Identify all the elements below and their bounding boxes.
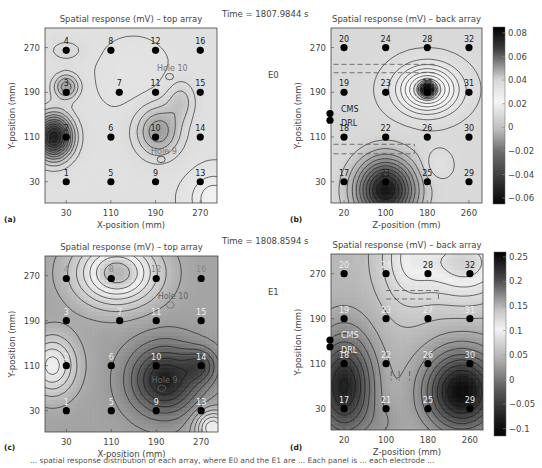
- field-cell: [205, 139, 210, 144]
- field-cell: [166, 155, 171, 160]
- field-cell: [124, 352, 129, 357]
- field-cell: [372, 254, 376, 259]
- field-cell: [119, 159, 124, 164]
- field-cell: [80, 175, 85, 180]
- field-cell: [84, 404, 89, 409]
- electrode-dot: [116, 317, 123, 324]
- field-cell: [182, 163, 187, 168]
- field-cell: [431, 28, 435, 33]
- field-cell: [171, 328, 176, 333]
- field-cell: [417, 342, 421, 347]
- field-cell: [186, 179, 191, 184]
- field-cell: [331, 278, 335, 283]
- field-cell: [452, 398, 456, 403]
- field-cell: [100, 344, 105, 349]
- field-cell: [431, 159, 435, 164]
- field-cell: [206, 320, 211, 325]
- field-cell: [104, 84, 109, 89]
- field-cell: [417, 314, 421, 319]
- field-cell: [171, 324, 176, 329]
- field-cell: [135, 272, 140, 277]
- field-cell: [441, 167, 445, 172]
- electrode-label: 24: [381, 261, 391, 270]
- field-cell: [407, 119, 411, 124]
- field-cell: [88, 88, 93, 93]
- field-cell: [362, 56, 366, 61]
- field-cell: [190, 127, 195, 132]
- field-cell: [123, 147, 128, 152]
- field-cell: [382, 96, 386, 101]
- field-cell: [80, 356, 85, 361]
- field-cell: [53, 32, 58, 37]
- field-cell: [369, 68, 373, 73]
- field-cell: [147, 92, 152, 97]
- field-cell: [352, 402, 356, 407]
- field-cell: [334, 262, 338, 267]
- field-cell: [417, 394, 421, 399]
- field-cell: [393, 28, 397, 33]
- field-cell: [369, 298, 373, 303]
- field-cell: [434, 123, 438, 128]
- field-cell: [376, 422, 380, 427]
- field-cell: [84, 127, 89, 132]
- field-cell: [45, 179, 50, 184]
- field-cell: [359, 254, 363, 259]
- field-cell: [210, 264, 215, 269]
- field-cell: [345, 298, 349, 303]
- field-cell: [369, 370, 373, 375]
- field-cell: [132, 296, 137, 301]
- field-cell: [76, 296, 81, 301]
- field-cell: [127, 44, 132, 49]
- field-cell: [445, 406, 449, 411]
- field-cell: [403, 119, 407, 124]
- field-cell: [410, 135, 414, 140]
- field-cell: [448, 72, 452, 77]
- field-cell: [348, 60, 352, 65]
- field-cell: [171, 420, 176, 425]
- field-cell: [352, 147, 356, 152]
- field-cell: [170, 28, 175, 33]
- field-cell: [132, 304, 137, 309]
- field-cell: [348, 139, 352, 144]
- field-cell: [369, 32, 373, 37]
- field-cell: [431, 191, 435, 196]
- field-cell: [76, 167, 81, 172]
- field-cell: [404, 326, 408, 331]
- field-cell: [393, 135, 397, 140]
- field-cell: [127, 151, 132, 156]
- field-cell: [455, 262, 459, 267]
- field-cell: [143, 179, 148, 184]
- field-cell: [104, 60, 109, 65]
- field-cell: [135, 308, 140, 313]
- field-cell: [452, 406, 456, 411]
- field-cell: [45, 412, 50, 417]
- field-cell: [84, 356, 89, 361]
- field-cell: [369, 88, 373, 93]
- field-cell: [393, 258, 397, 263]
- field-cell: [206, 388, 211, 393]
- field-cell: [197, 191, 202, 196]
- field-cell: [376, 127, 380, 132]
- field-cell: [438, 410, 442, 415]
- field-cell: [461, 147, 465, 152]
- field-cell: [104, 159, 109, 164]
- field-cell: [104, 32, 109, 37]
- field-cell: [369, 262, 373, 267]
- field-cell: [100, 44, 105, 49]
- field-cell: [155, 384, 160, 389]
- field-cell: [96, 151, 101, 156]
- electrode-label: 27: [422, 79, 432, 88]
- field-cell: [100, 396, 105, 401]
- field-cell: [424, 147, 428, 152]
- field-cell: [167, 316, 172, 321]
- field-cell: [205, 187, 210, 192]
- field-cell: [147, 171, 152, 176]
- electrode-dot: [424, 270, 431, 277]
- field-cell: [80, 171, 85, 176]
- field-cell: [178, 44, 183, 49]
- field-cell: [334, 163, 338, 168]
- condition-label-e0: E0: [268, 70, 279, 80]
- field-cell: [334, 48, 338, 53]
- field-cell: [115, 163, 120, 168]
- field-cell: [147, 72, 152, 77]
